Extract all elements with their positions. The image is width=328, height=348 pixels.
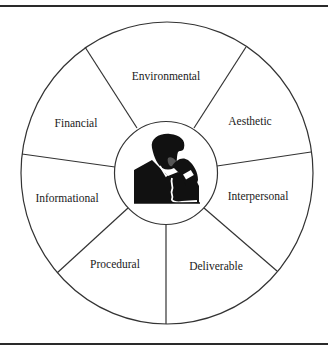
bottom-rule — [0, 343, 328, 345]
segment-wheel-diagram: Environmental Aesthetic Interpersonal De… — [0, 0, 328, 348]
segment-label-informational: Informational — [35, 192, 98, 204]
segment-label-procedural: Procedural — [90, 258, 140, 270]
segment-label-deliverable: Deliverable — [189, 260, 243, 272]
segment-label-interpersonal: Interpersonal — [228, 190, 289, 203]
segment-label-aesthetic: Aesthetic — [228, 115, 271, 127]
spoke — [85, 47, 137, 128]
spoke — [217, 152, 311, 166]
segment-label-financial: Financial — [55, 117, 98, 129]
segment-label-environmental: Environmental — [132, 70, 200, 82]
spoke — [22, 154, 115, 167]
